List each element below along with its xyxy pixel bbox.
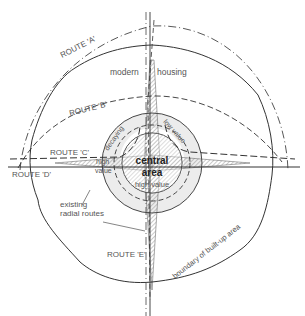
existing-label: existing bbox=[60, 200, 87, 209]
route-e-label: ROUTE 'E' bbox=[107, 250, 146, 259]
existing-routes-leader bbox=[103, 222, 145, 231]
route-b-label: ROUTE 'B' bbox=[68, 100, 108, 118]
urban-structure-diagram: ROUTE 'A' ROUTE 'B' ROUTE 'C' ROUTE 'D' … bbox=[0, 0, 305, 316]
area-label: area bbox=[142, 167, 163, 178]
route-c-label: ROUTE 'C' bbox=[50, 148, 90, 157]
boundary-label: boundary of built-up area bbox=[171, 222, 243, 281]
route-a-label: ROUTE 'A' bbox=[59, 34, 98, 60]
diagram-svg: ROUTE 'A' ROUTE 'B' ROUTE 'C' ROUTE 'D' … bbox=[0, 0, 305, 316]
high-value-center-label: high value bbox=[135, 180, 169, 189]
radial-routes-label: radial routes bbox=[60, 209, 104, 218]
route-d-label: ROUTE 'D' bbox=[12, 170, 52, 179]
central-label: central bbox=[136, 155, 169, 166]
value-label: value bbox=[95, 167, 112, 174]
high-label: high bbox=[96, 158, 109, 166]
modern-label: modern bbox=[110, 67, 139, 77]
housing-label: housing bbox=[157, 67, 187, 77]
